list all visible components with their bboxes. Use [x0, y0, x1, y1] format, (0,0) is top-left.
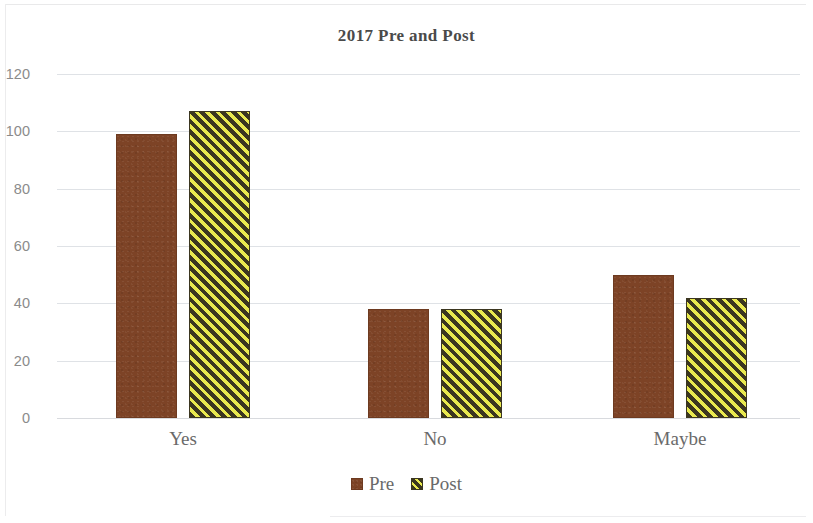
y-axis-tick-label: 120: [0, 66, 30, 82]
page-edge-line-top: [6, 4, 806, 5]
bar-pre-yes: [116, 134, 177, 418]
legend-item-pre[interactable]: Pre: [351, 474, 394, 493]
y-axis-tick-label: 40: [0, 295, 30, 311]
gridline: [57, 131, 800, 132]
bar-pre-maybe: [613, 275, 674, 418]
y-axis-tick-label: 100: [0, 123, 30, 139]
legend-label-post: Post: [429, 474, 462, 493]
chart-legend: PrePost: [0, 474, 813, 493]
y-axis-tick-label: 60: [0, 238, 30, 254]
y-axis-tick-label: 0: [0, 410, 30, 426]
bar-post-yes: [189, 111, 250, 418]
bar-post-no: [441, 309, 502, 418]
gridline: [57, 74, 800, 75]
gridline: [57, 418, 800, 419]
striped-square-icon: [411, 478, 423, 490]
y-axis-tick-label: 80: [0, 181, 30, 197]
y-axis-tick-label: 20: [0, 353, 30, 369]
legend-item-post[interactable]: Post: [411, 474, 462, 493]
page-edge-line-bottom: [330, 516, 806, 517]
plot-area: 020406080100120: [57, 74, 800, 418]
bar-pre-no: [368, 309, 429, 418]
x-axis-label-yes: Yes: [169, 428, 197, 450]
legend-label-pre: Pre: [369, 474, 394, 493]
bar-post-maybe: [686, 298, 747, 418]
x-axis-label-maybe: Maybe: [654, 428, 707, 450]
chart-title: 2017 Pre and Post: [0, 26, 813, 46]
chart-container: 2017 Pre and Post 020406080100120 YesNoM…: [0, 0, 813, 523]
brown-square-icon: [351, 478, 363, 490]
x-axis-label-no: No: [423, 428, 446, 450]
